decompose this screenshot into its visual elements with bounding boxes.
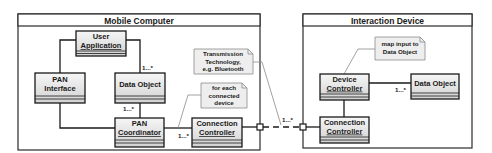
multiplicity-pan-coord-conn-ctrl: 1...* [178, 132, 190, 139]
note-for-each-line2: connected [209, 92, 240, 99]
mobile-computer-title: Mobile Computer [104, 16, 174, 26]
interaction-device-title: Interaction Device [351, 16, 424, 26]
note-transmission: Transmission Technology, e.g. Bluetooth [194, 49, 253, 74]
multiplicity-user-app-data-object: 1...* [142, 64, 154, 71]
class-pan-interface[interactable]: PAN Interface [35, 73, 85, 103]
user-application-line2: Application [81, 41, 122, 50]
note-transmission-line1: Transmission [203, 50, 243, 57]
multiplicity-device-controller-data-object: 1...* [395, 86, 407, 93]
multiplicity-data-object-pan-coordinator: 1...* [123, 105, 135, 112]
note-map-input-line2: Data Object [383, 48, 417, 55]
class-data-object-mobile[interactable]: Data Object [115, 73, 165, 103]
port-device [300, 124, 306, 130]
note-for-each-line1: for each [212, 84, 236, 91]
port-mobile [257, 124, 263, 130]
note-map-input: map input to Data Object [375, 37, 425, 60]
note-transmission-line2: Technology, [205, 58, 241, 65]
class-connection-controller-mobile[interactable]: Connection Controller [192, 118, 242, 147]
connection-controller-mobile-line1: Connection [196, 119, 238, 128]
pan-interface-line2: Interface [44, 84, 75, 93]
pan-coordinator-line1: PAN [132, 119, 147, 128]
note-map-input-line1: map input to [381, 40, 418, 47]
user-application-line1: User [93, 32, 110, 41]
pan-interface-line1: PAN [52, 75, 67, 84]
note-for-each-line3: device [214, 99, 234, 106]
class-pan-coordinator[interactable]: PAN Coordinator [115, 118, 164, 147]
connection-controller-device-line1: Connection [324, 118, 366, 127]
class-data-object-device[interactable]: Data Object [411, 74, 459, 99]
note-transmission-line3: e.g. Bluetooth [202, 65, 243, 72]
class-user-application[interactable]: User Application [76, 31, 126, 56]
class-device-controller[interactable]: Device Controller [320, 74, 369, 100]
uml-component-diagram: Mobile Computer Interaction Device [0, 0, 492, 153]
device-controller-line2: Controller [327, 84, 363, 93]
data-object-mobile-label: Data Object [119, 80, 161, 89]
multiplicity-port-link: 1...* [282, 116, 294, 123]
note-for-each-connected-device: for each connected device [201, 83, 247, 108]
connection-controller-device-line2: Controller [327, 127, 363, 136]
data-object-device-label: Data Object [414, 79, 456, 88]
device-controller-line1: Device [332, 75, 356, 84]
class-connection-controller-device[interactable]: Connection Controller [320, 117, 369, 143]
connection-controller-mobile-line2: Controller [199, 128, 235, 137]
pan-coordinator-line2: Coordinator [118, 128, 161, 137]
